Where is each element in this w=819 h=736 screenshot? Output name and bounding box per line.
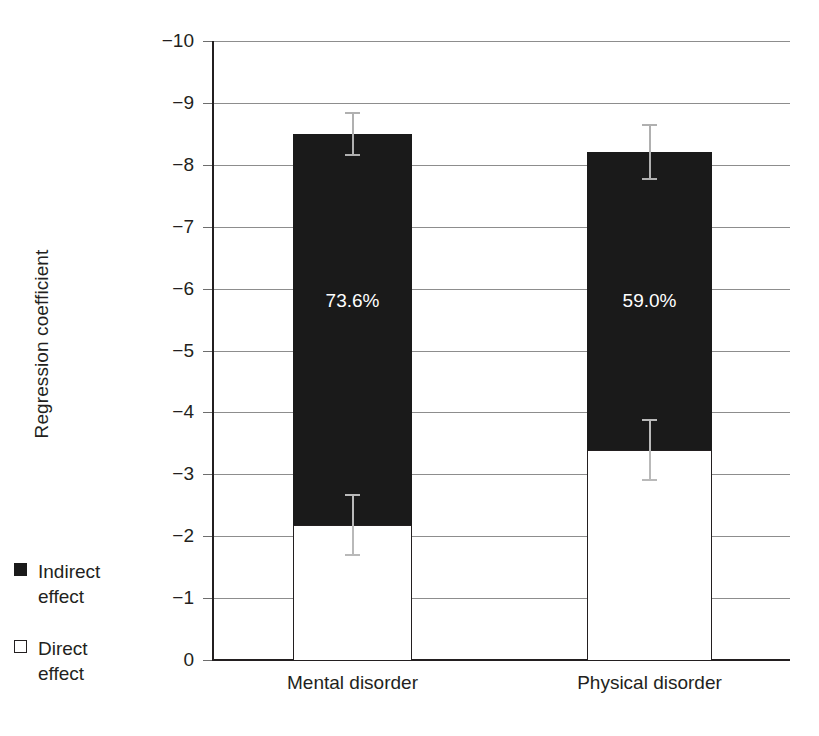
error-bar-cap-lower (345, 154, 360, 156)
legend-label-line2: effect (38, 586, 84, 607)
y-axis-tick-label-text: −9 (152, 93, 194, 112)
error-bar-stem (352, 112, 354, 155)
bar-segment-indirect[interactable] (293, 134, 412, 525)
error-bar-cap-upper (642, 419, 657, 421)
y-axis-tick-label-text: 0 (152, 650, 194, 669)
error-bar-stem (649, 124, 651, 180)
y-axis-tick (203, 289, 212, 290)
y-axis-tick-label-text: −10 (152, 31, 194, 50)
y-axis-tick (203, 598, 212, 599)
legend-item-direct-effect[interactable]: Direct effect (14, 636, 88, 686)
error-bar-total (293, 112, 412, 155)
y-axis-tick (203, 412, 212, 413)
filled-square-icon (14, 563, 27, 576)
y-axis-tick (203, 536, 212, 537)
error-bar-cap-lower (642, 479, 657, 481)
error-bar-stem (352, 494, 354, 556)
error-bar-cap-lower (642, 178, 657, 180)
x-axis-category-label: Physical disorder (540, 672, 760, 694)
y-axis-tick-label-text: −7 (152, 217, 194, 236)
error-bar-cap-upper (642, 124, 657, 126)
y-axis-tick (203, 351, 212, 352)
error-bar-cap-upper (345, 494, 360, 496)
legend-label-line2: effect (38, 663, 84, 684)
y-axis-title: Regression coefficient (31, 214, 53, 474)
legend-label-line1: Direct (38, 638, 88, 659)
y-axis-tick (203, 103, 212, 104)
bar-percent-label: 73.6% (293, 291, 412, 310)
error-bar-stem (649, 419, 651, 481)
legend-label-line1: Indirect (38, 561, 100, 582)
legend-item-label: Direct effect (38, 636, 88, 686)
error-bar-cap-lower (345, 554, 360, 556)
y-axis-tick-label-text: −6 (152, 279, 194, 298)
y-axis-tick (203, 227, 212, 228)
y-axis-tick (203, 41, 212, 42)
hollow-square-icon (14, 640, 27, 653)
bar-segment-direct[interactable] (587, 450, 712, 661)
y-axis-tick-label-text: −1 (152, 588, 194, 607)
legend-item-label: Indirect effect (38, 559, 100, 609)
y-axis-tick-label-text: −8 (152, 155, 194, 174)
x-axis-category-label: Mental disorder (243, 672, 463, 694)
legend-item-indirect-effect[interactable]: Indirect effect (14, 559, 100, 609)
y-axis-tick-label-text: −2 (152, 526, 194, 545)
error-bar-total (587, 124, 712, 180)
error-bar-direct (293, 494, 412, 556)
bar-percent-label: 59.0% (587, 291, 712, 310)
y-axis-tick (203, 165, 212, 166)
y-axis-tick-label-text: −4 (152, 402, 194, 421)
y-axis-tick-label-text: −5 (152, 341, 194, 360)
error-bar-direct (587, 419, 712, 481)
y-axis-tick (203, 474, 212, 475)
chart-figure: Regression coefficient −10−9−8−7−6−5−4−3… (0, 0, 819, 736)
error-bar-cap-upper (345, 112, 360, 114)
y-axis-tick-label-text: −3 (152, 464, 194, 483)
y-axis-tick (203, 660, 212, 661)
